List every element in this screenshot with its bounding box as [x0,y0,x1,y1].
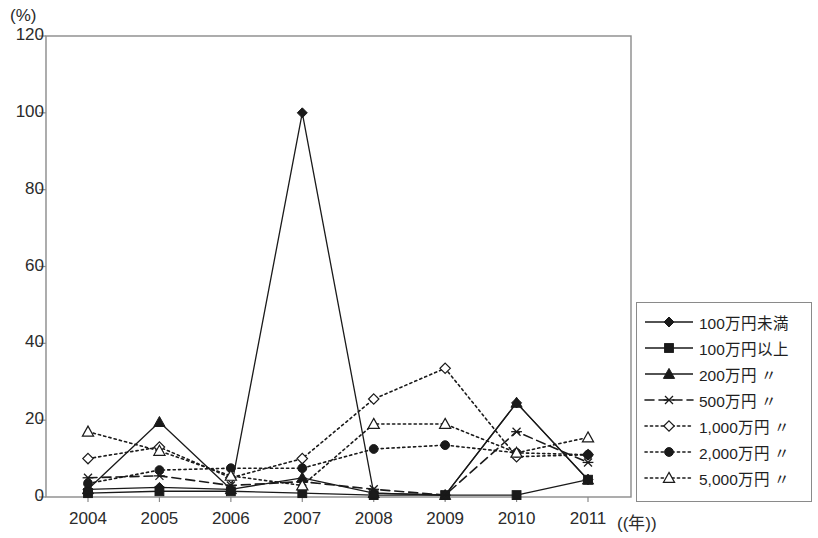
y-tick-label: 80 [0,179,44,199]
legend-item[interactable]: 2,000万円 〃 [643,439,807,465]
x-axis-unit-label: ((年)) [617,509,657,534]
legend-item[interactable]: 100万円未満 [643,309,807,335]
legend-sample-filled-square-icon [643,337,695,359]
legend-item[interactable]: 100万円以上 [643,335,807,361]
chart-container: (%) 020406080100120 20042005200620072008… [0,0,818,538]
x-tick-label: 2005 [124,509,194,529]
data-point-marker [665,448,674,457]
x-tick-label: 2011 [553,509,623,529]
data-point-marker [441,441,450,450]
x-tick-label: 2010 [482,509,552,529]
x-tick-label: 2009 [410,509,480,529]
y-tick-label: 40 [0,332,44,352]
legend-label: 200万円 〃 [699,363,777,385]
data-point-marker [155,466,164,475]
y-tick-label: 60 [0,256,44,276]
y-tick-label: 100 [0,102,44,122]
data-point-marker [298,464,307,473]
legend-sample-filled-diamond-icon [643,311,695,333]
data-point-marker [512,491,521,500]
legend-sample-open-triangle-icon [643,467,695,489]
legend-item[interactable]: 1,000万円 〃 [643,413,807,439]
legend-item[interactable]: 200万円 〃 [643,361,807,387]
legend-sample-cross-x-icon [643,389,695,411]
legend-label: 5,000万円 〃 [699,467,790,489]
x-tick-label: 2004 [53,509,123,529]
legend-label: 2,000万円 〃 [699,441,790,463]
legend-label: 500万円 〃 [699,389,777,411]
data-point-marker [664,317,674,327]
x-tick-label: 2007 [267,509,337,529]
data-point-marker [664,396,675,404]
x-tick-label: 2006 [196,509,266,529]
data-point-marker [584,450,593,459]
data-point-marker [369,445,378,454]
chart-legend: 100万円未満100万円以上200万円 〃500万円 〃1,000万円 〃2,0… [636,302,812,502]
y-tick-label: 20 [0,409,44,429]
data-point-marker [665,344,674,353]
legend-label: 100万円以上 [699,337,789,359]
y-tick-label: 120 [0,25,44,45]
data-point-marker [84,479,93,488]
x-tick-label: 2008 [339,509,409,529]
legend-sample-filled-triangle-icon [643,363,695,385]
data-point-marker [664,421,674,431]
legend-item[interactable]: 500万円 〃 [643,387,807,413]
legend-label: 1,000万円 〃 [699,415,790,437]
legend-sample-open-diamond-icon [643,415,695,437]
y-tick-label: 0 [0,486,44,506]
legend-sample-filled-circle-icon [643,441,695,463]
legend-label: 100万円未満 [699,311,789,333]
legend-item[interactable]: 5,000万円 〃 [643,465,807,491]
data-point-marker [155,487,164,496]
